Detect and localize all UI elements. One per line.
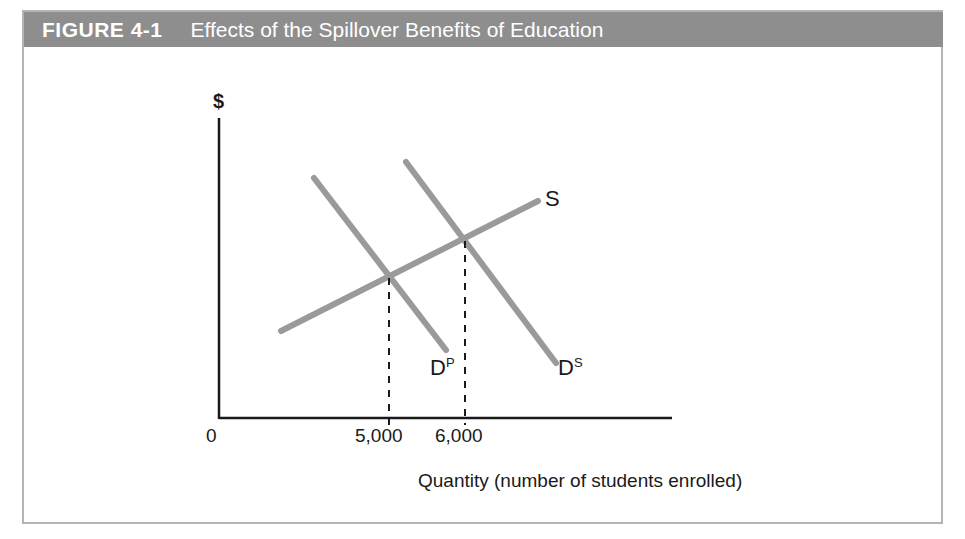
demand-private-curve [314, 178, 446, 350]
x-axis-caption: Quantity (number of students enrolled) [418, 470, 742, 492]
demand-social-curve-label: DS [558, 355, 583, 381]
supply-curve [281, 201, 538, 331]
y-axis-label: $ [213, 90, 224, 113]
figure-container: FIGURE 4-1 Effects of the Spillover Bene… [0, 0, 965, 539]
x-tick-label-5000: 5,000 [355, 425, 403, 447]
demand-private-label-superscript: P [446, 355, 455, 370]
demand-social-curve [406, 162, 556, 363]
demand-private-label-base: D [430, 355, 446, 380]
chart-plot-area [0, 0, 965, 539]
demand-social-label-base: D [558, 355, 574, 380]
x-tick-label-6000: 6,000 [435, 425, 483, 447]
x-tick-label-0: 0 [206, 425, 217, 447]
demand-private-curve-label: DP [430, 355, 455, 381]
supply-curve-label: S [545, 186, 560, 212]
demand-social-label-superscript: S [574, 355, 583, 370]
